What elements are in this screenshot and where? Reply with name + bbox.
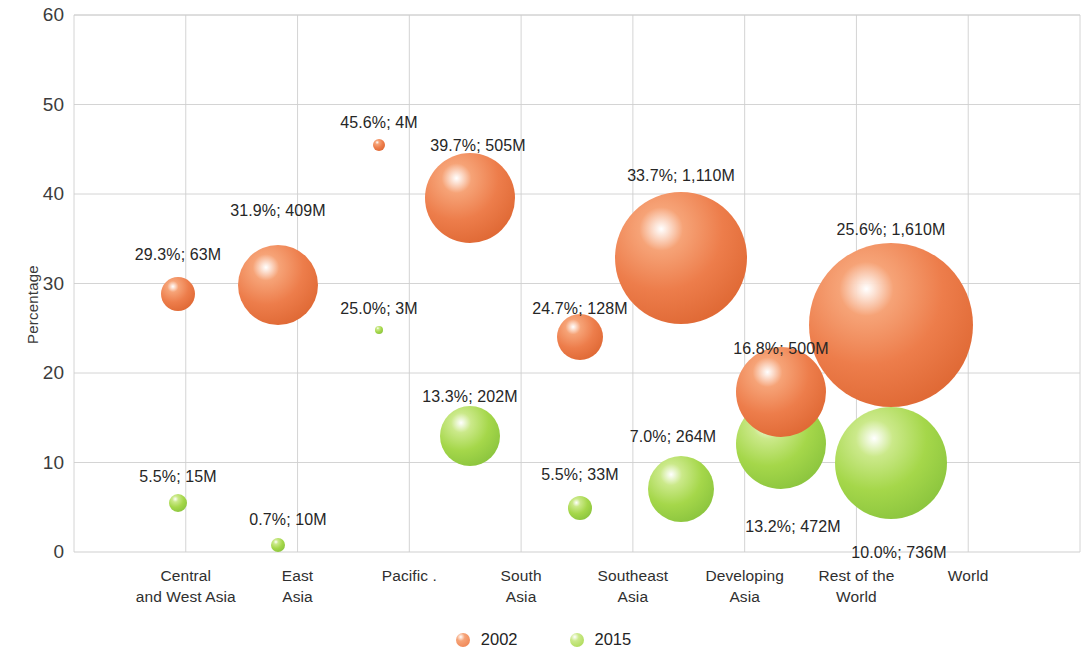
bubble-2015-central-and-west-asia[interactable]	[169, 494, 187, 512]
bubble-label-2002-south-asia: 39.7%; 505M	[430, 137, 525, 155]
bubble-label-2015-east-asia: 0.7%; 10M	[249, 511, 326, 529]
y-tick-label: 20	[10, 362, 64, 384]
bubble-label-2002-world: 25.6%; 1,610M	[837, 221, 946, 239]
bubble-2015-south-asia[interactable]	[440, 406, 500, 466]
x-tick-label-7: World	[948, 565, 989, 586]
bubble-2002-pacific[interactable]	[373, 139, 385, 151]
bubble-label-2002-central-and-west-asia: 29.3%; 63M	[135, 246, 221, 264]
x-tick-label-2: Pacific .	[382, 565, 437, 586]
y-tick-label: 60	[10, 4, 64, 26]
bubble-label-2015-central-and-west-asia: 5.5%; 15M	[139, 468, 216, 486]
legend-item-2002[interactable]: 2002	[456, 630, 518, 649]
x-tick-label-5: Developing Asia	[705, 565, 784, 607]
bubble-2002-southeast-asia[interactable]	[557, 314, 603, 360]
bubble-2002-east-asia[interactable]	[238, 245, 318, 325]
bubble-2002-central-and-west-asia[interactable]	[161, 277, 195, 311]
bubble-2002-rest-of-the-world[interactable]	[736, 347, 826, 437]
y-tick-label: 40	[10, 183, 64, 205]
x-tick-label-6: Rest of the World	[818, 565, 894, 607]
legend-item-2015[interactable]: 2015	[570, 630, 632, 649]
legend-swatch-icon	[570, 633, 584, 647]
bubble-label-2002-rest-of-the-world: 16.8%; 500M	[733, 340, 828, 358]
bubble-label-2015-southeast-asia: 5.5%; 33M	[541, 466, 618, 484]
bubble-2015-east-asia[interactable]	[271, 538, 285, 552]
bubble-label-2002-east-asia: 31.9%; 409M	[230, 202, 325, 220]
bubble-2015-developing-asia[interactable]	[648, 456, 714, 522]
bubble-label-2002-southeast-asia: 24.7%; 128M	[532, 300, 627, 318]
y-tick-label: 50	[10, 94, 64, 116]
bubble-label-2015-developing-asia: 7.0%; 264M	[630, 428, 716, 446]
chart-legend: 20022015	[0, 630, 1087, 649]
x-tick-label-0: Central and West Asia	[136, 565, 236, 607]
bubble-2002-world[interactable]	[809, 243, 973, 407]
bubble-2015-pacific[interactable]	[375, 326, 383, 334]
bubble-label-2002-pacific: 45.6%; 4M	[340, 114, 417, 132]
legend-label: 2015	[595, 630, 632, 649]
x-tick-label-4: Southeast Asia	[598, 565, 669, 607]
legend-swatch-icon	[456, 633, 470, 647]
bubble-group-2002	[161, 139, 973, 437]
bubble-2015-world[interactable]	[835, 407, 947, 519]
y-tick-label: 0	[10, 541, 64, 563]
bubble-label-2002-developing-asia: 33.7%; 1,110M	[627, 167, 735, 185]
y-tick-label: 10	[10, 452, 64, 474]
bubble-label-2015-pacific: 25.0%; 3M	[340, 300, 417, 318]
bubble-label-2015-world: 10.0%; 736M	[851, 544, 946, 562]
bubble-label-2015-rest-of-the-world: 13.2%; 472M	[745, 518, 840, 536]
x-tick-label-1: East Asia	[282, 565, 313, 607]
bubble-chart: 6050403020100 Percentage Central and Wes…	[0, 0, 1087, 661]
bubble-2002-south-asia[interactable]	[425, 153, 515, 243]
y-axis-title: Percentage	[24, 245, 41, 365]
bubble-2015-southeast-asia[interactable]	[568, 496, 592, 520]
legend-label: 2002	[481, 630, 518, 649]
bubble-2002-developing-asia[interactable]	[615, 192, 747, 324]
bubble-label-2015-south-asia: 13.3%; 202M	[422, 388, 517, 406]
x-tick-label-3: South Asia	[501, 565, 542, 607]
